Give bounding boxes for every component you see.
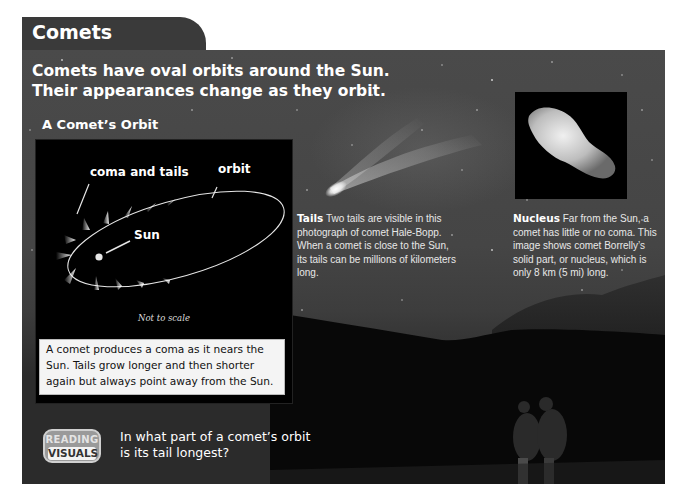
section-title: Comets xyxy=(32,21,112,43)
diagram-caption: A comet produces a coma as it nears the … xyxy=(39,339,285,395)
intro-text: Comets have oval orbits around the Sun. … xyxy=(32,61,432,101)
sun-icon xyxy=(95,253,102,260)
nucleus-description: Nucleus Far from the Sun, a comet has li… xyxy=(513,212,663,280)
tails-title: Tails xyxy=(297,212,323,224)
diagram-heading: A Comet’s Orbit xyxy=(42,117,158,132)
nucleus-title: Nucleus xyxy=(513,212,560,224)
reading-visuals-question: In what part of a comet’s orbit is its t… xyxy=(120,429,320,461)
tails-description: Tails Two tails are visible in this phot… xyxy=(297,212,457,280)
section-tab: Comets xyxy=(22,17,206,51)
not-to-scale-note: Not to scale xyxy=(36,313,292,323)
badge-bottom-label: VISUALS xyxy=(48,447,96,460)
comet-borrelly-nucleus-image xyxy=(515,92,627,199)
label-orbit: orbit xyxy=(218,162,251,176)
badge-top-label: READING xyxy=(45,434,99,446)
comets-panel: Comets have oval orbits around the Sun. … xyxy=(22,50,665,484)
reading-visuals-badge: READING VISUALS xyxy=(43,429,101,463)
comet-orbit-diagram: coma and tails orbit Sun Not to scale A … xyxy=(35,139,293,404)
label-coma-and-tails: coma and tails xyxy=(90,165,189,179)
label-sun: Sun xyxy=(134,228,160,242)
comet-hale-bopp-photo xyxy=(322,100,522,200)
